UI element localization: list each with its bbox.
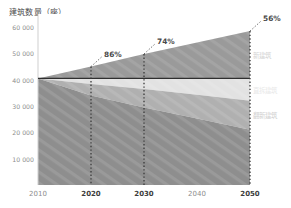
x-tick-2040: 2040 <box>188 190 206 198</box>
annotation-74%: 74% <box>157 37 175 46</box>
annotation-86%: 86% <box>104 50 122 59</box>
x-tick-2030: 2030 <box>134 190 153 198</box>
series-label-3: 翻新建筑 <box>253 111 277 120</box>
series-label-2: 直拆建筑 <box>253 85 277 94</box>
x-tick-2010: 2010 <box>29 190 47 198</box>
chart-container: 建筑数量（座） 10 00020 00030 00040 00050 00060… <box>0 0 291 208</box>
series-label-1: 新建筑 <box>253 50 271 59</box>
x-tick-2050: 2050 <box>240 190 259 198</box>
series-label-4: 现有建筑 <box>253 153 277 162</box>
callout-leader-56% <box>250 21 261 31</box>
chart-plot-area <box>0 0 291 208</box>
x-tick-2020: 2020 <box>81 190 100 198</box>
annotation-56%: 56% <box>263 14 281 23</box>
